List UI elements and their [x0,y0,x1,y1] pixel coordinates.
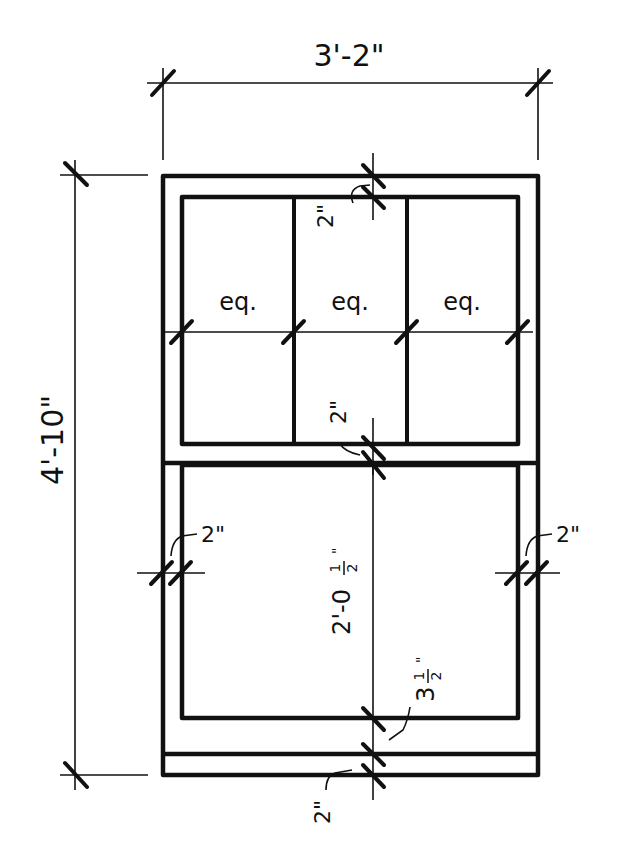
lower-sash: 2" 2" 2'-0 1 2 " 3 1 2 " 2" [137,463,580,824]
meeting-rail-label: 2" [326,400,351,424]
window-elevation-drawing: 3'-2" 4'-10" eq. eq. eq. 2" [0,0,635,852]
svg-text:2: 2 [428,672,444,681]
svg-text:": " [329,548,345,554]
svg-text:3: 3 [412,686,440,701]
overall-width-label: 3'-2" [313,38,384,73]
upper-sash: eq. eq. eq. 2" 2" [165,153,533,478]
top-rail-label: 2" [313,204,338,228]
pane-label-left: eq. [219,288,257,316]
svg-text:2: 2 [344,564,360,573]
overall-width-dimension: 3'-2" [147,38,553,160]
sill-label: 2" [310,800,335,824]
overall-height-dimension: 4'-10" [35,160,148,790]
svg-text:": " [413,657,429,663]
pane-label-center: eq. [331,288,369,316]
svg-text:1: 1 [411,672,427,681]
svg-text:1: 1 [327,564,343,573]
left-stile-label: 2" [201,522,225,547]
svg-text:2'-0: 2'-0 [328,589,356,635]
bottom-rail-label: 3 1 2 " [411,657,444,702]
glass-height-label: 2'-0 1 2 " [327,548,360,635]
overall-height-label: 4'-10" [35,395,70,485]
right-stile-label: 2" [556,522,580,547]
pane-label-right: eq. [443,288,481,316]
window-outer-frame [163,176,538,775]
